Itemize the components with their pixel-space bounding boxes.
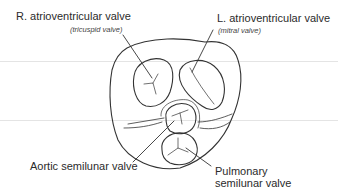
label-left-av-valve: L. atrioventricular valve bbox=[217, 12, 330, 24]
tricuspid-valve bbox=[134, 59, 173, 107]
label-mitral: (mitral valve) bbox=[218, 26, 261, 35]
label-right-av-valve: R. atrioventricular valve bbox=[16, 10, 131, 22]
label-pulmonary-line2: semilunar valve bbox=[215, 177, 291, 189]
label-aortic-valve: Aortic semilunar valve bbox=[30, 160, 138, 172]
label-pulmonary-line1: Pulmonary bbox=[215, 165, 268, 177]
mitral-valve bbox=[179, 60, 224, 109]
pulmonary-valve bbox=[162, 133, 197, 165]
label-tricuspid: (tricuspid valve) bbox=[70, 25, 123, 34]
